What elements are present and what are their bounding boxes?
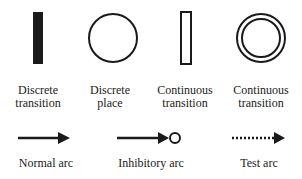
label-line: transition — [145, 97, 225, 110]
label-line: transition — [0, 97, 78, 110]
discrete-place-label: Discrete place — [70, 84, 150, 110]
normal-arc-label: Normal arc — [1, 157, 91, 170]
label-line: place — [70, 97, 150, 110]
continuous-transition-icon — [181, 12, 191, 64]
discrete-place-icon — [89, 14, 137, 62]
continuous-transition-label: Continuous transition — [145, 84, 225, 110]
test-arc-label: Test arc — [214, 157, 302, 170]
test-arc-icon — [232, 132, 285, 144]
inhibitory-arc-icon — [117, 132, 180, 144]
continuous-place-icon — [237, 14, 285, 62]
label-line: transition — [221, 97, 301, 110]
inhibitory-arc-label: Inhibitory arc — [106, 157, 196, 170]
normal-arc-icon — [18, 132, 70, 144]
discrete-transition-label: Discrete transition — [0, 84, 78, 110]
continuous-place-label: Continuous transition — [221, 84, 301, 110]
discrete-transition-icon — [33, 12, 43, 64]
